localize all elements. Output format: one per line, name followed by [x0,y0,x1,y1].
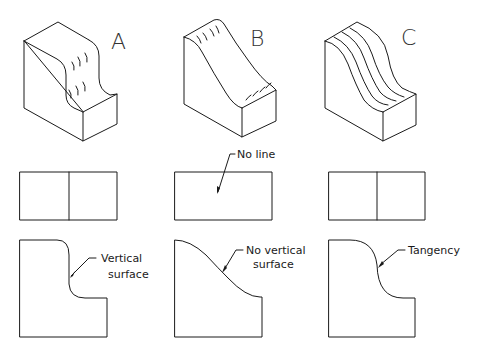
callout-b-line1: No vertical [246,244,305,257]
callout-a-line2: surface [108,268,149,281]
front-view-a: Vertical surface [20,240,149,337]
callout-b-line2: surface [253,258,294,271]
callout-tangency: Tangency [407,244,460,257]
top-view-b: No line [175,148,276,220]
diagram-canvas: A Vertical surface B [0,0,477,351]
column-b: B No line No vertical surface [175,20,305,338]
label-c: C [401,25,416,50]
top-view-a [20,172,117,220]
front-view-b: No vertical surface [175,240,305,337]
label-b: B [250,26,264,51]
column-c: C Tangency [325,22,460,337]
isometric-block-a [24,22,117,141]
column-a: A Vertical surface [20,22,149,337]
label-a: A [111,29,126,54]
callout-no-line: No line [237,148,276,161]
top-view-c [329,172,425,220]
front-view-c: Tangency [329,240,460,337]
callout-a-line1: Vertical [101,252,142,265]
